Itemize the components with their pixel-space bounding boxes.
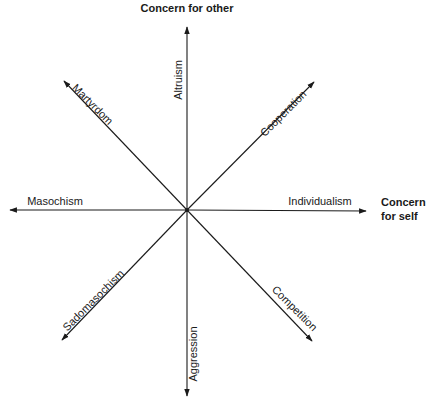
label-individualism: Individualism — [288, 195, 352, 207]
arrow-competition — [187, 210, 312, 341]
label-cooperation: Cooperation — [258, 88, 309, 139]
label-martyrdom: Martyrdom — [70, 81, 116, 127]
label-competition: Competition — [270, 283, 320, 333]
vertical-axis-title: Concern for other — [141, 2, 235, 14]
interpersonal-orientation-diagram: Concern for other Concern for self Altru… — [0, 0, 430, 401]
arrow-individualism — [187, 210, 366, 211]
label-altruism: Altruism — [172, 60, 184, 100]
horizontal-axis-title-line1: Concern — [381, 196, 426, 208]
center-point — [185, 208, 189, 212]
label-aggression: Aggression — [187, 326, 199, 381]
label-sadomasochism: Sadomasochism — [60, 267, 126, 333]
label-masochism: Masochism — [27, 195, 83, 207]
horizontal-axis-title-line2: for self — [381, 210, 418, 222]
